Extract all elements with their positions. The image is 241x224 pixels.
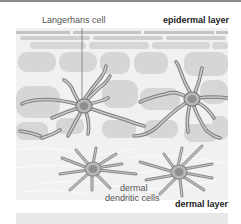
stratum-spinosum-flat [30, 42, 228, 49]
stratum-corneum [16, 31, 228, 34]
nucleus [80, 102, 89, 110]
nucleus [89, 165, 98, 173]
nucleus [188, 95, 197, 103]
epidermal-layer-label: epidermal layer [163, 15, 229, 25]
top-border [0, 0, 241, 2]
dermal-dendritic-label-line2: dendritic cells [105, 193, 160, 203]
stratum-granulosum [20, 36, 226, 40]
langerhans-cell-label: Langerhans cell [42, 15, 106, 25]
skin-layers-diagram [16, 28, 228, 200]
bottom-band [16, 213, 228, 224]
dermal-layer-label: dermal layer [175, 199, 228, 209]
dermal-dendritic-label-line1: dermal [120, 183, 148, 193]
nucleus [175, 168, 184, 176]
